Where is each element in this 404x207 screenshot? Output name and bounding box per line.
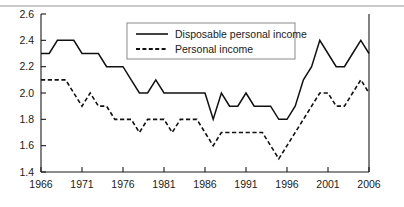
x-tick-label-1996: 1996: [275, 178, 299, 190]
x-axis-tick-labels: 196619711976198119861991199620012006: [29, 178, 381, 190]
y-tick-label-2.0: 2.0: [19, 87, 34, 99]
x-tick-label-1986: 1986: [193, 178, 217, 190]
y-tick-label-2.4: 2.4: [19, 34, 34, 46]
x-tick-label-1991: 1991: [234, 178, 258, 190]
chart-legend: Disposable personal income Personal inco…: [127, 23, 307, 59]
x-tick-label-2001: 2001: [316, 178, 340, 190]
y-tick-label-2.6: 2.6: [19, 8, 34, 20]
x-tick-label-1971: 1971: [70, 178, 94, 190]
x-tick-label-2006: 2006: [357, 178, 381, 190]
y-tick-label-1.6: 1.6: [19, 139, 34, 151]
chart-container: 1.41.61.82.02.22.42.6 196619711976198119…: [0, 0, 404, 207]
x-tick-label-1976: 1976: [111, 178, 135, 190]
x-tick-label-1966: 1966: [29, 178, 53, 190]
legend-label-personal-income: Personal income: [175, 43, 253, 55]
y-tick-label-2.2: 2.2: [19, 60, 34, 72]
legend-label-disposable-personal-income: Disposable personal income: [175, 28, 307, 40]
y-tick-label-1.4: 1.4: [19, 166, 34, 178]
x-tick-label-1981: 1981: [152, 178, 176, 190]
line-chart: 1.41.61.82.02.22.42.6 196619711976198119…: [0, 0, 404, 207]
y-tick-label-1.8: 1.8: [19, 113, 34, 125]
